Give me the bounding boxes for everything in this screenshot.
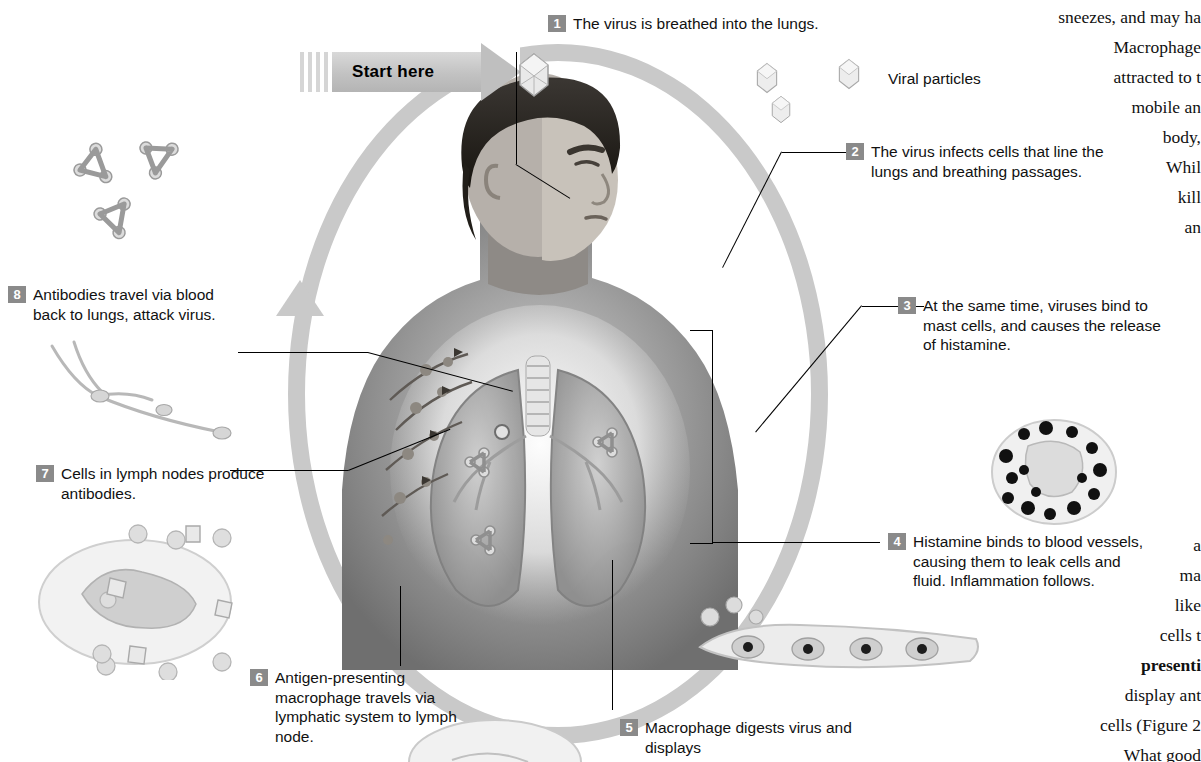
blood-vessel-strand-illustration [40,340,250,450]
body-line: kill [996,182,1201,212]
virus-particle-icon [518,52,550,98]
start-here-label: Start here [352,62,434,82]
virus-particle-icon [771,95,791,124]
leader-line-1 [516,52,517,164]
start-here-arrow: Start here [300,46,530,98]
body-line: a [996,530,1201,560]
callout-step-5: 5 Macrophage digests virus and displays [620,718,875,757]
body-line: Macrophage [996,32,1201,62]
body-line: mobile an [996,92,1201,122]
bracket-right-torso [690,330,713,544]
callout-step-7: 7 Cells in lymph nodes produce antibodie… [36,464,271,503]
virus-particle-icon [838,58,860,90]
virus-particle-icon [756,62,778,94]
step-number-badge: 6 [250,669,268,686]
body-line: cells t [996,620,1201,650]
body-line: like [996,590,1201,620]
step-number-badge: 8 [8,286,26,303]
step-number-badge: 3 [898,297,916,314]
body-line: What good [996,740,1201,762]
step-number-badge: 7 [36,465,54,482]
leader-line-4 [712,542,880,543]
body-text-column-bottom: a ma like cells t presenti display ant c… [996,530,1201,762]
step-number-badge: 5 [620,719,638,736]
step-number-badge: 4 [888,533,906,550]
body-line-figure-ref: cells (Figure 2 [996,710,1201,740]
step-text: Cells in lymph nodes produce antibodies. [61,464,271,503]
callout-step-1: 1 The virus is breathed into the lungs. [548,14,838,34]
step-text: Antibodies travel via blood back to lung… [33,285,249,324]
leader-line-8 [238,352,368,353]
body-line: Whil [996,152,1201,182]
step-text: Antigen-presenting macrophage travels vi… [275,668,487,746]
mast-cell-illustration [984,412,1124,532]
ring-arrowhead-icon [276,280,324,316]
callout-step-8: 8 Antibodies travel via blood back to lu… [8,285,249,324]
step-text: At the same time, viruses bind to mast c… [923,296,1173,355]
human-torso-illustration [330,70,750,670]
callout-step-6: 6 Antigen-presenting macrophage travels … [250,668,487,746]
figure-page: Start here Viral particles [0,0,1201,762]
body-line: ma [996,560,1201,590]
body-line: sneezes, and may ha [996,2,1201,32]
leader-line-5 [612,560,613,710]
callout-step-3: 3 At the same time, viruses bind to mast… [898,296,1173,355]
viral-particles-label: Viral particles [888,70,981,88]
arrow-head-icon [481,43,521,101]
blood-vessel-wall-illustration [690,595,990,690]
body-line: attracted to t [996,62,1201,92]
step-number-badge: 1 [548,15,566,32]
step-text: The virus is breathed into the lungs. [573,14,838,34]
body-text-column-top: sneezes, and may ha Macrophage attracted… [996,2,1201,242]
lymphocyte-cell-illustration [10,520,240,680]
body-line: display ant [996,680,1201,710]
antibody-cluster-illustration [60,140,240,260]
body-line: an [996,212,1201,242]
step-number-badge: 2 [846,143,864,160]
leader-line-6 [400,586,401,666]
body-line-bold: presenti [996,650,1201,680]
step-text: Macrophage digests virus and displays [645,718,875,757]
body-line: body, [996,122,1201,152]
